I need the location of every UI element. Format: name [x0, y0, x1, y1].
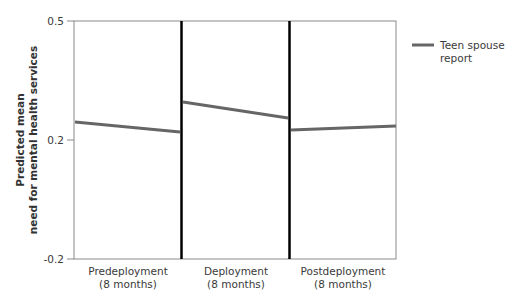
legend-label-line2: report: [440, 52, 472, 64]
legend: Teen spouse report: [412, 39, 505, 64]
category-label-sub: (8 months): [207, 278, 265, 290]
category-label-sub: (8 months): [314, 278, 372, 290]
series-teen-spouse-report: [75, 102, 396, 132]
legend-label-line1: Teen spouse: [439, 39, 505, 51]
segment-predeployment: [75, 122, 180, 132]
category-label: Deployment: [204, 265, 268, 277]
category-label-sub: (8 months): [99, 278, 157, 290]
segment-deployment: [183, 102, 288, 118]
y-axis-label-line1: Predicted mean: [14, 93, 26, 186]
y-tick-label: 0.2: [47, 134, 64, 146]
plot-frame: [74, 21, 396, 259]
y-tick-label: -0.2: [44, 253, 65, 265]
segment-postdeployment: [291, 126, 396, 130]
category-label: Postdeployment: [301, 265, 386, 277]
y-axis-label: Predicted mean need for mental health se…: [14, 46, 39, 234]
category-label: Predeployment: [88, 265, 168, 277]
y-axis-label-line2: need for mental health services: [27, 46, 39, 234]
chart: 0.5 0.2 -0.2 Predicted mean need for men…: [0, 0, 507, 301]
y-tick-label: 0.5: [47, 15, 64, 27]
